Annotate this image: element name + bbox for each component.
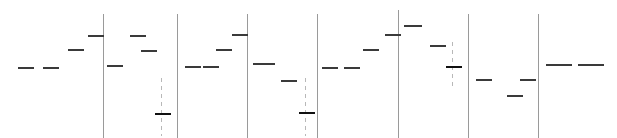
chart-canvas bbox=[0, 0, 617, 138]
divider-2 bbox=[177, 14, 178, 138]
tick-mark bbox=[141, 50, 157, 52]
tick-mark bbox=[232, 34, 248, 36]
tick-mark bbox=[546, 64, 572, 66]
tick-mark bbox=[88, 35, 104, 37]
divider-1 bbox=[103, 14, 104, 138]
tick-mark bbox=[507, 95, 523, 97]
ledger-3 bbox=[452, 42, 453, 88]
tick-mark bbox=[363, 49, 379, 51]
tick-mark bbox=[578, 64, 604, 66]
tick-mark bbox=[68, 49, 84, 51]
tick-mark bbox=[299, 112, 315, 114]
tick-mark bbox=[43, 67, 59, 69]
tick-mark bbox=[322, 67, 338, 69]
tick-mark bbox=[476, 79, 492, 81]
tick-mark bbox=[281, 80, 297, 82]
divider-5 bbox=[398, 10, 399, 138]
tick-mark bbox=[130, 35, 146, 37]
divider-3 bbox=[247, 14, 248, 138]
tick-mark bbox=[520, 79, 536, 81]
tick-mark bbox=[107, 65, 123, 67]
tick-mark bbox=[155, 113, 171, 115]
divider-7 bbox=[538, 14, 539, 138]
tick-mark bbox=[404, 25, 422, 27]
tick-mark bbox=[185, 66, 201, 68]
tick-mark bbox=[430, 45, 446, 47]
divider-6 bbox=[468, 14, 469, 138]
ledger-1 bbox=[161, 78, 162, 136]
tick-mark bbox=[446, 66, 462, 68]
tick-mark bbox=[216, 49, 232, 51]
tick-mark bbox=[253, 63, 275, 65]
tick-mark bbox=[344, 67, 360, 69]
tick-mark bbox=[385, 34, 401, 36]
divider-4 bbox=[317, 14, 318, 138]
ledger-2 bbox=[305, 78, 306, 136]
tick-mark bbox=[18, 67, 34, 69]
tick-mark bbox=[203, 66, 219, 68]
